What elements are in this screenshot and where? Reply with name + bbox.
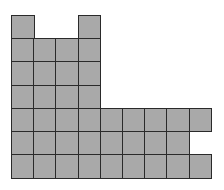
grid-cell — [55, 38, 79, 63]
grid-cell — [78, 38, 102, 63]
grid-cell — [144, 154, 168, 179]
grid-shape-diagram — [0, 0, 224, 190]
grid-cell — [33, 38, 57, 63]
grid-cell — [144, 108, 168, 133]
grid-cell — [122, 108, 146, 133]
grid-cell — [78, 108, 102, 133]
grid-cell — [55, 85, 79, 110]
grid-cell — [33, 85, 57, 110]
grid-cell — [11, 61, 35, 86]
grid-cell — [166, 131, 190, 156]
grid-cell — [78, 15, 102, 40]
grid-cell — [33, 131, 57, 156]
grid-cell — [33, 154, 57, 179]
grid-cell — [55, 131, 79, 156]
grid-cell — [33, 61, 57, 86]
grid-cell — [11, 85, 35, 110]
grid-cell — [11, 15, 35, 40]
grid-cell — [33, 108, 57, 133]
grid-cell — [78, 61, 102, 86]
grid-cell — [100, 154, 124, 179]
grid-cell — [55, 154, 79, 179]
grid-cell — [78, 85, 102, 110]
grid-cell — [11, 38, 35, 63]
grid-cell — [11, 131, 35, 156]
grid-cell — [166, 108, 190, 133]
grid-cell — [100, 108, 124, 133]
grid-cell — [122, 131, 146, 156]
grid-cell — [122, 154, 146, 179]
grid-cell — [55, 108, 79, 133]
grid-cell — [100, 131, 124, 156]
grid-cell — [189, 154, 213, 179]
grid-cell — [166, 154, 190, 179]
grid-cell — [55, 61, 79, 86]
grid-cell — [11, 154, 35, 179]
grid-cell — [144, 131, 168, 156]
grid-cell — [189, 108, 213, 133]
grid-cell — [78, 131, 102, 156]
grid-cell — [78, 154, 102, 179]
grid-cell — [11, 108, 35, 133]
